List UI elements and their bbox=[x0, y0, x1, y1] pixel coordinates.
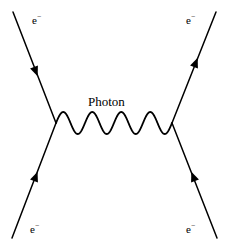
label-incoming-electron-bottom-left: e− bbox=[30, 224, 39, 235]
charge-sign-top-left: − bbox=[37, 12, 41, 21]
arrowhead-bottom-right bbox=[187, 170, 198, 182]
label-outgoing-electron-top-right: e− bbox=[186, 15, 195, 26]
charge-sign-bottom-right: − bbox=[191, 221, 195, 230]
feynman-diagram-svg bbox=[0, 0, 229, 249]
charge-sign-top-right: − bbox=[191, 12, 195, 21]
charge-sign-bottom-left: − bbox=[35, 221, 39, 230]
electron-line-top-right bbox=[172, 12, 216, 123]
label-incoming-electron-top-left: e− bbox=[32, 15, 41, 26]
arrowhead-top-left bbox=[30, 65, 41, 77]
feynman-diagram-canvas: e− e− e− e− Photon bbox=[0, 0, 229, 249]
arrowhead-top-right bbox=[190, 56, 201, 68]
label-outgoing-electron-bottom-right: e− bbox=[186, 224, 195, 235]
label-photon-propagator: Photon bbox=[88, 95, 125, 108]
arrowhead-bottom-left bbox=[30, 170, 41, 182]
photon-propagator-wave bbox=[56, 112, 172, 134]
